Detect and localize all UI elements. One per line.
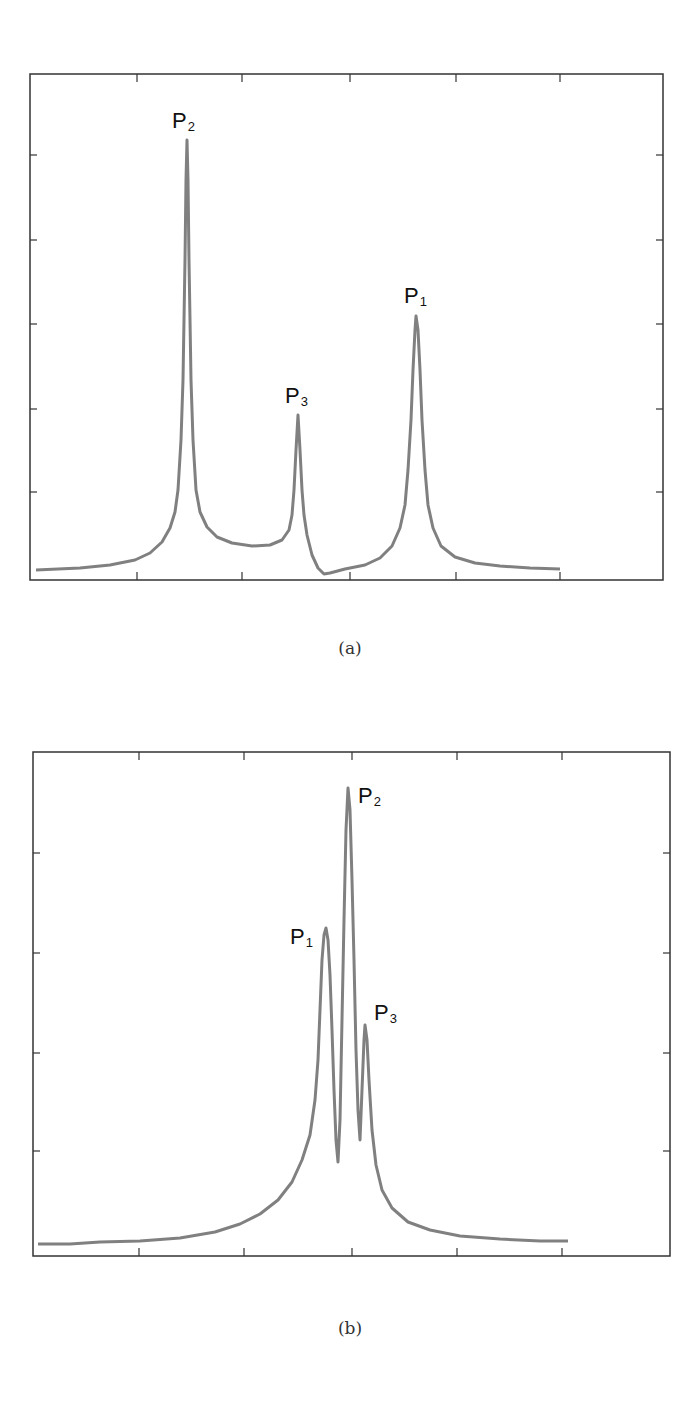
- peak-label-subscript: 2: [188, 119, 195, 134]
- chart-a-top-ticks: [137, 74, 560, 82]
- peak-label-subscript: 3: [390, 1011, 397, 1026]
- peak-label-subscript: 1: [420, 294, 427, 309]
- chart-b-top-ticks: [139, 752, 562, 760]
- caption-b: (b): [0, 1318, 700, 1338]
- peak-label-base: P: [285, 383, 300, 408]
- peak-label-subscript: 2: [374, 794, 381, 809]
- chart-a-frame: [30, 74, 663, 580]
- peak-label-base: P: [172, 108, 187, 133]
- caption-a: (a): [0, 638, 700, 658]
- chart-b-left-ticks: [33, 853, 40, 1151]
- peak-label-base: P: [290, 924, 305, 949]
- peak-label-b-p2: P2: [358, 785, 381, 808]
- chart-b-spectrum-curve: [38, 788, 568, 1244]
- peak-label-base: P: [374, 1000, 389, 1025]
- chart-b-bottom-ticks: [139, 1248, 562, 1256]
- chart-b: [33, 752, 670, 1256]
- peak-label-a-p1: P1: [404, 285, 427, 308]
- peak-label-a-p3: P3: [285, 385, 308, 408]
- chart-b-right-ticks: [663, 853, 670, 1151]
- peak-label-a-p2: P2: [172, 110, 195, 133]
- chart-a-left-ticks: [30, 155, 37, 492]
- peak-label-base: P: [358, 783, 373, 808]
- chart-a-spectrum-curve: [36, 140, 560, 574]
- peak-label-subscript: 3: [301, 394, 308, 409]
- peak-label-b-p3: P3: [374, 1002, 397, 1025]
- peak-label-subscript: 1: [306, 935, 313, 950]
- figure-canvas: [0, 0, 700, 1405]
- chart-a: [30, 74, 663, 580]
- chart-a-bottom-ticks: [137, 572, 560, 580]
- peak-label-base: P: [404, 283, 419, 308]
- chart-a-right-ticks: [656, 155, 663, 492]
- peak-label-b-p1: P1: [290, 926, 313, 949]
